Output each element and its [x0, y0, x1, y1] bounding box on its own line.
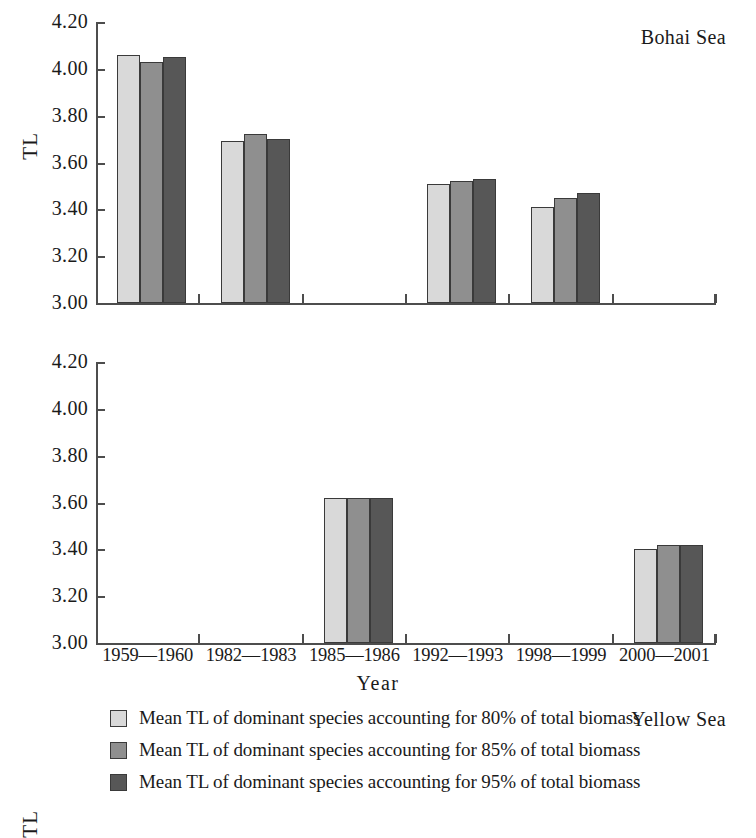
bar — [347, 498, 370, 643]
x-axis-tick-label: 1998—1999 — [516, 645, 607, 666]
bar — [427, 184, 450, 303]
y-axis-tick — [96, 596, 105, 598]
x-axis-tick — [508, 634, 510, 643]
plot-area-yellow: 4.204.003.803.603.403.203.00 — [96, 362, 716, 643]
x-axis-title: Year — [0, 672, 756, 695]
y-axis-tick — [96, 69, 105, 71]
x-axis-tick — [198, 634, 200, 643]
y-axis-tick — [96, 116, 105, 118]
legend-label: Mean TL of dominant species accounting f… — [139, 739, 640, 761]
bar — [324, 498, 347, 643]
y-axis-tick-label: 4.20 — [52, 350, 88, 373]
x-axis-tick — [302, 634, 304, 643]
bar — [577, 193, 600, 303]
y-axis-tick — [96, 163, 105, 165]
x-axis-tick — [612, 634, 614, 643]
y-axis-tick-label: 3.40 — [52, 537, 88, 560]
bar — [267, 139, 290, 303]
bar — [657, 545, 680, 643]
y-axis-tick-label: 3.60 — [52, 491, 88, 514]
bar — [473, 179, 496, 303]
x-axis-tick-label: 2000—2001 — [619, 645, 710, 666]
x-axis-tick — [405, 634, 407, 643]
y-axis-tick-label: 3.20 — [52, 244, 88, 267]
legend-label: Mean TL of dominant species accounting f… — [139, 707, 640, 729]
bar — [680, 545, 703, 643]
y-axis-tick — [96, 209, 105, 211]
bar — [244, 134, 267, 303]
y-axis-top-cap — [96, 22, 105, 24]
y-axis-tick — [96, 409, 105, 411]
bar — [163, 57, 186, 303]
x-axis-tick — [612, 294, 614, 303]
y-axis-tick-label: 4.20 — [52, 10, 88, 33]
panel-bohai-sea: TL Bohai Sea 4.204.003.803.603.403.203.0… — [0, 0, 756, 330]
bar — [531, 207, 554, 303]
bar — [370, 498, 393, 643]
x-axis-tick-label: 1985—1986 — [309, 645, 400, 666]
y-axis-tick-label: 3.20 — [52, 584, 88, 607]
x-axis-tick — [198, 294, 200, 303]
y-axis-tick-label: 4.00 — [52, 57, 88, 80]
y-axis-tick-label: 4.00 — [52, 397, 88, 420]
bar — [554, 198, 577, 303]
x-axis-tick — [715, 294, 717, 303]
y-axis-tick — [96, 549, 105, 551]
bar — [140, 62, 163, 303]
x-axis-tick — [405, 294, 407, 303]
y-axis-tick-label: 3.00 — [52, 291, 88, 314]
y-axis-top-cap — [96, 362, 105, 364]
x-axis-tick-label: 1982—1983 — [206, 645, 297, 666]
legend-swatch-icon — [110, 742, 127, 759]
y-axis-tick — [96, 256, 105, 258]
y-axis-tick-label: 3.60 — [52, 151, 88, 174]
x-axis-line — [96, 303, 716, 305]
x-axis-tick-labels: 1959—19601982—19831985—19861992—19931998… — [96, 645, 716, 671]
y-axis-tick — [96, 503, 105, 505]
y-axis-tick-label: 3.80 — [52, 104, 88, 127]
y-axis-title-yellow: TL — [18, 810, 43, 838]
legend-item: Mean TL of dominant species accounting f… — [110, 702, 750, 734]
bar — [634, 549, 657, 643]
y-axis-tick-label: 3.00 — [52, 631, 88, 654]
legend-item: Mean TL of dominant species accounting f… — [110, 734, 750, 766]
x-axis-tick-label: 1959—1960 — [102, 645, 193, 666]
y-axis-title-bohai: TL — [18, 132, 43, 160]
plot-area-bohai: 4.204.003.803.603.403.203.00 — [96, 22, 716, 303]
y-axis-tick-label: 3.40 — [52, 197, 88, 220]
bar — [117, 55, 140, 303]
x-axis-tick-label: 1992—1993 — [412, 645, 503, 666]
legend-label: Mean TL of dominant species accounting f… — [139, 771, 640, 793]
x-axis-tick — [302, 294, 304, 303]
chart-legend: Mean TL of dominant species accounting f… — [110, 702, 750, 798]
y-axis-tick-label: 3.80 — [52, 444, 88, 467]
legend-swatch-icon — [110, 710, 127, 727]
panel-yellow-sea: TL Yellow Sea 4.204.003.803.603.403.203.… — [0, 340, 756, 670]
x-axis-tick — [715, 634, 717, 643]
legend-item: Mean TL of dominant species accounting f… — [110, 766, 750, 798]
bar — [450, 181, 473, 303]
y-axis-tick — [96, 456, 105, 458]
bar — [221, 141, 244, 303]
legend-swatch-icon — [110, 774, 127, 791]
x-axis-tick — [508, 294, 510, 303]
